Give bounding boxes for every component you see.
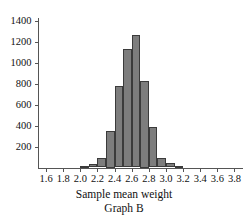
x-tick-mark — [115, 169, 116, 172]
histogram-bar — [80, 166, 89, 168]
histogram-bar — [132, 35, 141, 167]
histogram-bar — [175, 166, 184, 168]
y-tick-label: 1400 — [0, 16, 32, 27]
x-axis-line — [38, 168, 244, 169]
y-tick-label: 1000 — [0, 58, 32, 69]
x-tick-mark — [234, 169, 235, 172]
histogram-bar — [157, 158, 166, 168]
y-tick-mark — [35, 105, 38, 106]
histogram-bar — [123, 49, 132, 168]
y-tick-mark — [35, 84, 38, 85]
y-tick-mark — [35, 42, 38, 43]
y-tick-label: 200 — [0, 142, 32, 153]
histogram-bar — [149, 127, 158, 168]
x-tick-mark — [200, 169, 201, 172]
x-tick-mark — [149, 169, 150, 172]
x-axis-label: Sample mean weight — [0, 188, 248, 201]
histogram-bar — [166, 163, 175, 167]
x-tick-mark — [183, 169, 184, 172]
x-tick-mark — [97, 169, 98, 172]
histogram-bar — [97, 158, 106, 168]
y-tick-label: 400 — [0, 121, 32, 132]
histogram-bar — [115, 86, 124, 168]
x-tick-mark — [217, 169, 218, 172]
histogram-bar — [106, 131, 115, 168]
y-tick-label: 800 — [0, 79, 32, 90]
graph-annotation-label: Graph B — [0, 202, 248, 215]
x-tick-mark — [132, 169, 133, 172]
x-tick-mark — [166, 169, 167, 172]
y-tick-mark — [35, 21, 38, 22]
y-axis-line — [38, 18, 39, 169]
y-tick-mark — [35, 126, 38, 127]
x-tick-mark — [46, 169, 47, 172]
histogram-bar — [89, 164, 98, 167]
chart-page: 2004006008001000120014001.61.82.02.22.42… — [0, 0, 248, 222]
x-tick-mark — [80, 169, 81, 172]
y-tick-label: 1200 — [0, 37, 32, 48]
histogram-bar — [140, 81, 149, 168]
y-tick-mark — [35, 63, 38, 64]
x-tick-mark — [63, 169, 64, 172]
y-tick-label: 600 — [0, 100, 32, 111]
y-tick-mark — [35, 147, 38, 148]
x-tick-label: 3.8 — [222, 174, 246, 185]
